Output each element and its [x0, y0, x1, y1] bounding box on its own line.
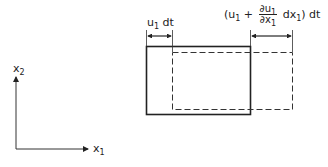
left-dimension-line [147, 30, 173, 52]
fraction-numerator: ∂u1 [259, 4, 278, 14]
x2-label-sub: 2 [20, 68, 25, 77]
partial-derivative-fraction: ∂u1∂x1 [259, 4, 278, 25]
coordinate-axes [16, 77, 88, 149]
x2-label-base: x [13, 62, 20, 75]
den-sub: 1 [271, 19, 276, 28]
x1-label-sub: 1 [100, 148, 105, 157]
right-displacement-label: (u1 + ∂u1∂x1 dx1) dt [224, 4, 320, 25]
original-element-rect [147, 47, 251, 115]
formula-open-sub: 1 [235, 14, 240, 23]
formula-open: (u [224, 8, 235, 21]
u-symbol: u [147, 16, 154, 29]
formula-dx: dx [279, 8, 296, 21]
left-displacement-label: u1 dt [147, 17, 174, 28]
formula-close: ) dt [301, 8, 320, 21]
num-text: ∂u [260, 3, 272, 14]
displaced-element-rect [173, 53, 293, 110]
dt-text: dt [159, 16, 174, 29]
formula-dx-sub: 1 [296, 14, 301, 23]
right-dimension-line [251, 30, 293, 52]
u-sub: 1 [154, 22, 159, 31]
x2-axis-label: x2 [13, 63, 25, 74]
den-text: ∂x [260, 14, 271, 25]
num-sub: 1 [271, 8, 276, 17]
formula-plus: + [240, 8, 256, 21]
x1-axis-label: x1 [93, 143, 105, 154]
x1-label-base: x [93, 142, 100, 155]
